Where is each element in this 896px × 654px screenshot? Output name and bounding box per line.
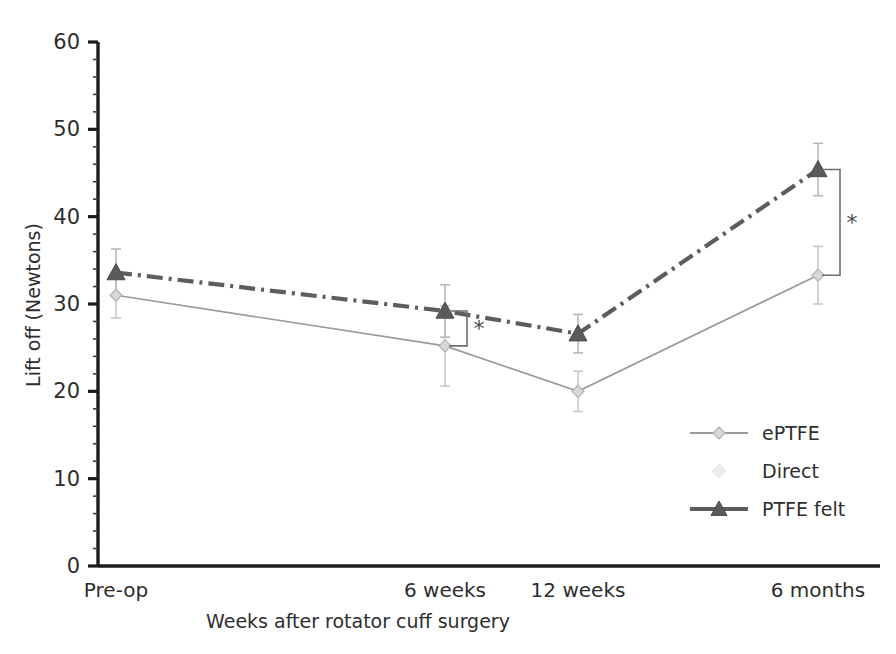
y-axis-title: Lift off (Newtons) bbox=[22, 223, 44, 387]
y-axis-tick-label-0: 0 bbox=[67, 554, 80, 578]
faint-marker bbox=[712, 464, 726, 478]
series-lines-layer bbox=[116, 170, 818, 392]
series-markers-layer bbox=[107, 161, 827, 398]
series-line-ptfe-felt bbox=[116, 170, 818, 334]
significance-6months: * bbox=[822, 170, 858, 276]
y-axis-tick-label-10: 10 bbox=[53, 467, 80, 491]
legend-item-ptfe-felt[interactable]: PTFE felt bbox=[690, 498, 845, 520]
x-axis-title: Weeks after rotator cuff surgery bbox=[206, 610, 510, 632]
legend-item-eptfe[interactable]: ePTFE bbox=[690, 422, 820, 444]
data-point-eptfe-2 bbox=[572, 385, 584, 397]
y-axis-tick-label-60: 60 bbox=[53, 30, 80, 54]
error-bars-layer bbox=[111, 143, 823, 411]
y-axis-tick-label-50: 50 bbox=[53, 117, 80, 141]
plot-area: ** bbox=[107, 143, 858, 411]
significance-asterisk: * bbox=[474, 316, 485, 341]
x-axis-tick-labels: Pre-op6 weeks12 weeks6 months bbox=[84, 578, 865, 602]
legend-label-eptfe: ePTFE bbox=[762, 422, 820, 444]
significance-bracket bbox=[822, 170, 840, 276]
x-axis-tick-label-6-months: 6 months bbox=[771, 578, 865, 602]
x-axis-tick-label-12-weeks: 12 weeks bbox=[531, 578, 626, 602]
chart-container: 0102030405060 Lift off (Newtons) Pre-op6… bbox=[0, 0, 896, 654]
legend-label-ptfe-felt: PTFE felt bbox=[762, 498, 845, 520]
y-axis-tick-label-20: 20 bbox=[53, 379, 80, 403]
data-point-eptfe-0 bbox=[110, 289, 122, 301]
lift-off-line-chart: 0102030405060 Lift off (Newtons) Pre-op6… bbox=[0, 0, 896, 654]
y-axis-tick-labels: 0102030405060 bbox=[53, 30, 80, 578]
significance-annotations-layer: ** bbox=[449, 170, 858, 346]
diamond-marker bbox=[713, 427, 725, 439]
legend-label-direct: Direct bbox=[762, 460, 819, 482]
significance-6weeks: * bbox=[449, 311, 485, 346]
legend-item-direct[interactable]: Direct bbox=[712, 460, 819, 482]
y-axis-tick-label-40: 40 bbox=[53, 205, 80, 229]
significance-asterisk: * bbox=[847, 210, 858, 235]
x-axis-tick-label-6-weeks: 6 weeks bbox=[404, 578, 486, 602]
x-axis-tick-label-pre-op: Pre-op bbox=[84, 578, 148, 602]
legend: ePTFEDirectPTFE felt bbox=[690, 422, 845, 520]
y-axis: 0102030405060 Lift off (Newtons) bbox=[22, 30, 98, 578]
y-axis-tick-label-30: 30 bbox=[53, 292, 80, 316]
data-point-ptfe-felt-3 bbox=[809, 161, 827, 177]
x-axis: Pre-op6 weeks12 weeks6 months Weeks afte… bbox=[84, 566, 880, 632]
